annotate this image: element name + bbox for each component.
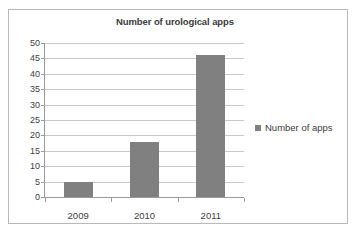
- plot-area: [45, 43, 244, 197]
- legend-label-number-of-apps: Number of apps: [265, 122, 333, 133]
- x-tick-mark-2010: [111, 198, 112, 202]
- x-tick-mark-end: [244, 198, 245, 202]
- x-axis-band: 200920102011: [45, 198, 244, 224]
- x-tick-label-2010: 2010: [112, 210, 178, 221]
- gridline-50: [45, 43, 244, 44]
- bar-2010[interactable]: [130, 142, 159, 197]
- x-tick-label-2011: 2011: [178, 210, 244, 221]
- bar-2011[interactable]: [196, 55, 225, 197]
- chart-frame: Number of urological apps 50454035302520…: [8, 9, 348, 224]
- x-tick-mark-2009: [45, 198, 46, 202]
- chart-title: Number of urological apps: [9, 16, 341, 27]
- x-tick-label-2009: 2009: [45, 210, 111, 221]
- x-tick-mark-2011: [178, 198, 179, 202]
- legend-swatch-number-of-apps: [255, 125, 261, 131]
- chart-legend: Number of apps: [255, 122, 345, 133]
- bar-2009[interactable]: [64, 182, 93, 197]
- y-axis-tick-marks: [9, 43, 45, 198]
